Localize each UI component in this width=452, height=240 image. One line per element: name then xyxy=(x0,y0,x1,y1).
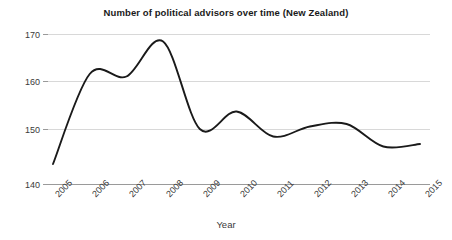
y-tick-label-160: 160 xyxy=(6,77,40,87)
y-tick-label-170: 170 xyxy=(6,30,40,40)
y-tick-label-150: 150 xyxy=(6,125,40,135)
chart-screenshot: Number of political advisors over time (… xyxy=(0,0,452,240)
line-series-path xyxy=(53,40,420,164)
plot-area xyxy=(48,33,430,187)
line-series-svg xyxy=(48,33,430,187)
x-axis-title: Year xyxy=(0,219,452,230)
y-tick-label-140: 140 xyxy=(6,180,40,190)
